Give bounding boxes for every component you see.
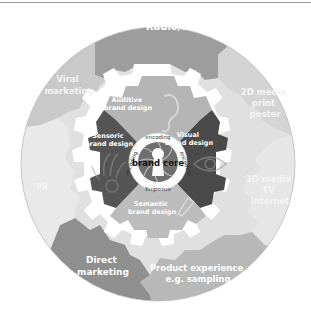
encoding-bottom: encoding bbox=[145, 186, 170, 193]
label-semantic: Semantic brand design bbox=[128, 200, 177, 216]
brand-core-diagram: encoding encoding encoding encoding bran… bbox=[0, 0, 311, 321]
label-radio: Radio/telephone bbox=[146, 21, 239, 32]
label-pr: PR bbox=[36, 183, 48, 192]
brand-core-label: brand core bbox=[132, 158, 184, 168]
